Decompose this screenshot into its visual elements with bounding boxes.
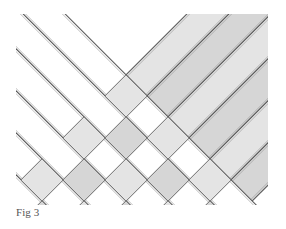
weave-crossing (147, 201, 189, 229)
weave-crossing (63, 201, 105, 229)
figure-caption: Fig 3 (16, 206, 39, 218)
weave-pattern (0, 0, 286, 229)
weave-crossing (105, 201, 147, 229)
weave-crossing (189, 201, 231, 229)
weave-figure (0, 0, 286, 229)
